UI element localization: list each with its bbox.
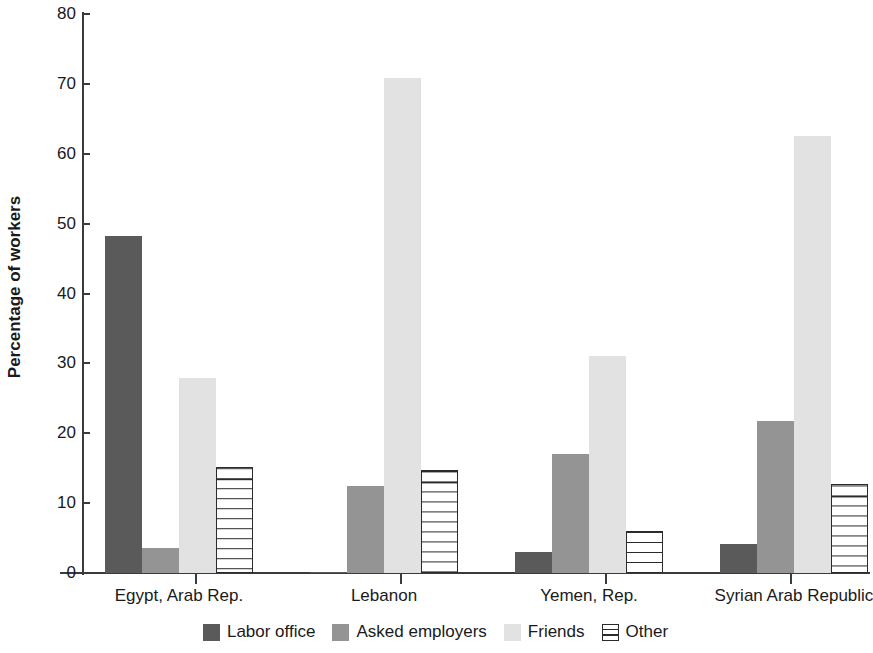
y-axis-tick-mark [83, 223, 90, 225]
x-axis-category-label: Yemen, Rep. [540, 586, 638, 606]
bar [347, 486, 384, 573]
plot-area: 01020304050607080 [82, 14, 869, 573]
x-axis-group-separator [790, 574, 792, 584]
x-axis-category-label: Egypt, Arab Rep. [115, 586, 244, 606]
bar [142, 548, 179, 573]
bar [216, 467, 253, 573]
y-axis-tick: 70 [57, 74, 82, 94]
y-axis-tick-label: 10 [57, 493, 82, 513]
bar [384, 78, 421, 573]
y-axis-tick-label: 0 [67, 563, 82, 583]
bar [831, 484, 868, 573]
x-axis-category-label: Lebanon [351, 586, 417, 606]
y-axis-tick: 10 [57, 493, 82, 513]
bar [310, 572, 347, 573]
legend-swatch [504, 624, 521, 641]
bar [552, 454, 589, 573]
y-axis-tick-mark [83, 13, 90, 15]
bar [515, 552, 552, 573]
y-axis-tick-mark [83, 293, 90, 295]
y-axis-tick-label: 20 [57, 423, 82, 443]
legend-item: Friends [504, 622, 585, 642]
y-axis-tick: 80 [57, 4, 82, 24]
legend-label: Labor office [227, 622, 316, 642]
y-axis-title: Percentage of workers [2, 0, 28, 573]
y-axis-tick-label: 40 [57, 284, 82, 304]
y-axis-tick-label: 60 [57, 144, 82, 164]
chart-legend: Labor officeAsked employersFriendsOther [0, 622, 871, 642]
bar [179, 378, 216, 573]
legend-label: Asked employers [356, 622, 486, 642]
y-axis-tick: 30 [57, 353, 82, 373]
legend-item: Labor office [203, 622, 316, 642]
y-axis-tick: 40 [57, 284, 82, 304]
bar [757, 421, 794, 573]
bar [794, 136, 831, 573]
x-axis-group-separator [400, 574, 402, 584]
legend-label: Friends [528, 622, 585, 642]
y-axis-tick-label: 30 [57, 353, 82, 373]
legend-swatch [332, 624, 349, 641]
y-axis-tick-label: 70 [57, 74, 82, 94]
bar [589, 356, 626, 573]
y-axis-tick-mark [83, 362, 90, 364]
bar [626, 531, 663, 573]
legend-item: Asked employers [332, 622, 486, 642]
y-axis-tick: 50 [57, 214, 82, 234]
y-axis-tick-mark [83, 502, 90, 504]
y-axis-tick-mark [83, 153, 90, 155]
legend-swatch [203, 624, 220, 641]
x-axis-category-label: Syrian Arab Republic [715, 586, 873, 606]
y-axis-tick-label: 80 [57, 4, 82, 24]
y-axis-tick: 0 [67, 563, 82, 583]
bar [720, 544, 757, 573]
bar [105, 236, 142, 573]
legend-label: Other [626, 622, 669, 642]
x-axis-group-separator [195, 574, 197, 584]
bar [421, 470, 458, 573]
y-axis-title-text: Percentage of workers [5, 195, 25, 377]
y-axis-tick-mark [83, 572, 90, 574]
y-axis-tick: 60 [57, 144, 82, 164]
legend-item: Other [602, 622, 669, 642]
x-axis-group-separator [605, 574, 607, 584]
y-axis-tick-mark [83, 432, 90, 434]
y-axis-tick-mark [83, 83, 90, 85]
legend-swatch [602, 624, 619, 641]
y-axis-tick-label: 50 [57, 214, 82, 234]
y-axis-tick: 20 [57, 423, 82, 443]
